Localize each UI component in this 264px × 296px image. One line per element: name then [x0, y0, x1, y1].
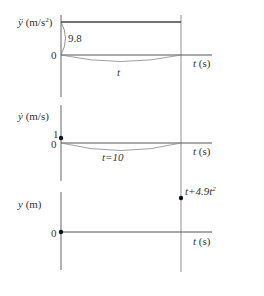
- acceleration-curve-label: t: [117, 67, 120, 78]
- position-zero-label: 0: [51, 228, 57, 239]
- acceleration-zero-label: 0: [51, 50, 57, 61]
- velocity-curve-label: t=10: [102, 152, 123, 163]
- diagram-canvas: [0, 0, 264, 296]
- velocity-initial-point: [59, 136, 63, 140]
- position-initial-point: [59, 230, 63, 234]
- velocity-time-brace: [61, 143, 181, 151]
- position-y-label: y (m): [18, 199, 42, 210]
- velocity-x-label: t (s): [193, 146, 210, 157]
- acceleration-time-brace: [61, 55, 181, 62]
- position-final-point: [179, 196, 183, 200]
- position-x-label: t (s): [193, 236, 210, 247]
- acceleration-x-label: t (s): [193, 58, 210, 69]
- position-point-label: t+4.9t2: [185, 186, 216, 197]
- velocity-y-label: ẏ (m/s): [18, 111, 49, 122]
- acceleration-y-label: ÿ (m/s2): [18, 17, 52, 28]
- acceleration-value-label: 9.8: [68, 33, 82, 44]
- acceleration-brace: [61, 22, 66, 55]
- velocity-zero-label: 0: [51, 139, 57, 150]
